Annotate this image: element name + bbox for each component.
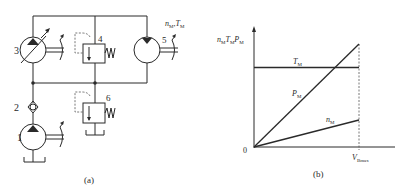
- motor-output-label: nM,TM: [165, 19, 185, 29]
- series-pm-label: PM: [291, 89, 302, 99]
- fixed-pump-1: [20, 121, 64, 162]
- component-label-4: 4: [98, 34, 103, 44]
- component-label-3: 3: [14, 45, 19, 56]
- series-tm-label: TM: [293, 57, 302, 67]
- hydraulic-circuit: 3 4 5 2 6 1 nM,TM (a): [14, 16, 185, 185]
- top-pressure-line: [33, 16, 147, 37]
- figure-canvas: 3 4 5 2 6 1 nM,TM (a) TM PM nM nMTMPM 0: [0, 0, 395, 191]
- component-label-2: 2: [14, 102, 19, 113]
- series-pm-line: [254, 44, 359, 147]
- component-label-1: 1: [17, 132, 22, 143]
- x-axis-label: VBmax: [352, 153, 369, 163]
- origin-label: 0: [243, 146, 247, 155]
- y-axis-arrow-icon: [252, 26, 256, 32]
- junction-dot: [93, 81, 97, 85]
- caption-a: (a): [84, 175, 94, 185]
- series-nm-line: [254, 120, 359, 147]
- return-line: [33, 63, 147, 83]
- motor-5: [134, 34, 178, 63]
- series-nm-label: nM: [326, 115, 335, 125]
- caption-b: (b): [313, 169, 324, 179]
- variable-pump-3: [20, 28, 64, 63]
- check-valve-2: [28, 83, 38, 124]
- component-label-6: 6: [106, 93, 111, 103]
- component-label-5: 5: [162, 35, 167, 45]
- y-axis-label: nMTMPM: [217, 35, 244, 45]
- tank-icon: [24, 157, 45, 162]
- characteristic-chart: TM PM nM nMTMPM 0 VBmax (b): [217, 26, 395, 179]
